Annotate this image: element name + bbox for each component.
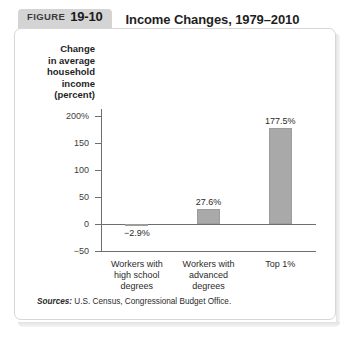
bar: [269, 128, 292, 224]
y-axis-line: [101, 109, 102, 251]
figure-header: FIGURE 19-10 Income Changes, 1979–2010: [18, 9, 299, 30]
bar: [197, 209, 220, 224]
figure-title: Income Changes, 1979–2010: [126, 12, 300, 27]
category-label-line: degrees: [101, 281, 173, 292]
panel-shadow-bottom: [18, 322, 340, 327]
y-tick-label: 200%: [43, 112, 89, 121]
category-label-line: high school: [101, 270, 173, 281]
figure-number-badge: FIGURE 19-10: [18, 9, 112, 30]
y-tick-mark: [95, 170, 101, 171]
category-label-line: advanced: [173, 270, 245, 281]
bar-value-label: 177.5%: [250, 116, 310, 126]
y-tick-label: 100: [43, 166, 89, 175]
y-tick-label: −50: [43, 247, 89, 256]
x-axis-line: [101, 251, 316, 252]
category-label-line: Workers with: [101, 259, 173, 270]
y-tick-mark: [95, 116, 101, 117]
plot-region: 200%150100500−50 −2.9%27.6%177.5% Worker…: [15, 29, 337, 321]
y-tick-mark: [95, 143, 101, 144]
figure-panel: Change in average household income (perc…: [14, 28, 336, 320]
category-label-line: degrees: [173, 281, 245, 292]
category-label-line: Top 1%: [244, 259, 316, 270]
y-tick-label-wrap: 150: [43, 139, 89, 148]
y-tick-mark: [95, 251, 101, 252]
category-label: Top 1%: [244, 259, 316, 270]
y-tick-label-wrap: 200%: [43, 112, 89, 121]
y-tick-label: 150: [43, 139, 89, 148]
category-label: Workers withhigh schooldegrees: [101, 259, 173, 292]
bar-value-label: 27.6%: [179, 197, 239, 207]
y-tick-label: 50: [43, 193, 89, 202]
y-tick-mark: [95, 224, 101, 225]
bar-value-label: −2.9%: [107, 228, 167, 238]
y-tick-label-wrap: 0: [43, 220, 89, 229]
category-label-line: Workers with: [173, 259, 245, 270]
source-text: U.S. Census, Congressional Budget Office…: [74, 297, 231, 306]
y-tick-label-wrap: −50: [43, 247, 89, 256]
source-label: Sources:: [37, 297, 72, 306]
source-line: Sources: U.S. Census, Congressional Budg…: [37, 297, 231, 306]
category-label: Workers withadvanceddegrees: [173, 259, 245, 292]
y-tick-label-wrap: 100: [43, 166, 89, 175]
y-tick-label: 0: [43, 220, 89, 229]
figure-label-word: FIGURE: [27, 11, 65, 22]
chart-area: Change in average household income (perc…: [15, 29, 337, 321]
bar: [125, 224, 148, 226]
y-tick-mark: [95, 197, 101, 198]
figure-number: 19-10: [70, 9, 102, 24]
y-tick-label-wrap: 50: [43, 193, 89, 202]
